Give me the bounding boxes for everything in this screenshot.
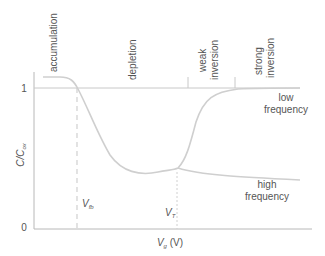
region-label-strong-inversion-2: inversion (265, 38, 276, 78)
region-label-depletion: depletion (127, 39, 138, 80)
y-axis-label: C/Cox (15, 142, 27, 167)
region-label-weak-inversion-2: inversion (209, 40, 220, 80)
x-axis-label: Vg (V) (157, 237, 183, 249)
high-frequency-label-2: frequency (245, 191, 289, 202)
high-frequency-curve (178, 168, 300, 180)
low-frequency-curve (43, 77, 300, 173)
low-frequency-label-2: frequency (264, 104, 308, 115)
region-label-strong-inversion-1: strong (253, 47, 264, 75)
vt-label: VT (165, 207, 177, 219)
y-tick-1: 1 (21, 83, 27, 94)
region-label-accumulation: accumulation (48, 13, 59, 72)
region-label-weak-inversion-1: weak (197, 48, 208, 73)
high-frequency-label-1: high (258, 179, 277, 190)
cv-curve-chart: 1 0 C/Cox Vg (V) accumulation depletion … (0, 0, 325, 256)
vfb-label: Vfb (82, 198, 94, 210)
low-frequency-label-1: low (278, 92, 294, 103)
y-tick-0: 0 (21, 222, 27, 233)
